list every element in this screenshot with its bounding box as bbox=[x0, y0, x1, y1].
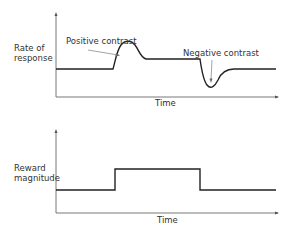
bottom-ylabel-line2: magnitude bbox=[14, 173, 60, 183]
top-ylabel-line2: response bbox=[14, 53, 53, 63]
bottom-y-arrow-icon bbox=[55, 129, 58, 133]
diagram-canvas bbox=[0, 0, 288, 231]
top-ylabel-line1: Rate of bbox=[14, 43, 44, 53]
top-y-arrow-icon bbox=[55, 12, 58, 16]
positive-contrast-label: Positive contrast bbox=[66, 36, 137, 46]
negative-arrowhead-icon bbox=[210, 79, 213, 84]
bottom-xlabel: Time bbox=[157, 215, 178, 225]
bottom-ylabel-line1: Reward bbox=[14, 163, 46, 173]
bottom-x-arrow-icon bbox=[275, 212, 279, 215]
top-x-arrow-icon bbox=[275, 96, 279, 99]
negative-contrast-label: Negative contrast bbox=[183, 48, 259, 58]
top-xlabel: Time bbox=[155, 98, 176, 108]
reward-step-line bbox=[56, 169, 276, 190]
positive-contrast-arrow bbox=[88, 50, 118, 55]
negative-contrast-arrow bbox=[211, 60, 212, 80]
bottom-chart-axes bbox=[56, 131, 278, 213]
